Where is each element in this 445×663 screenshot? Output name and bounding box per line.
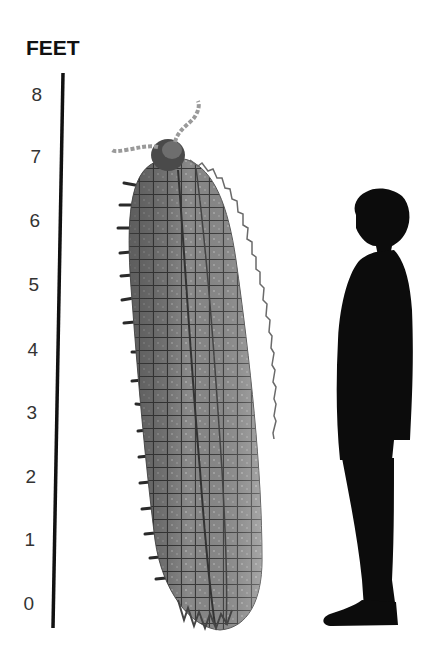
human-silhouette [323, 189, 412, 626]
scale-bar [53, 73, 63, 628]
illustration [0, 0, 445, 663]
